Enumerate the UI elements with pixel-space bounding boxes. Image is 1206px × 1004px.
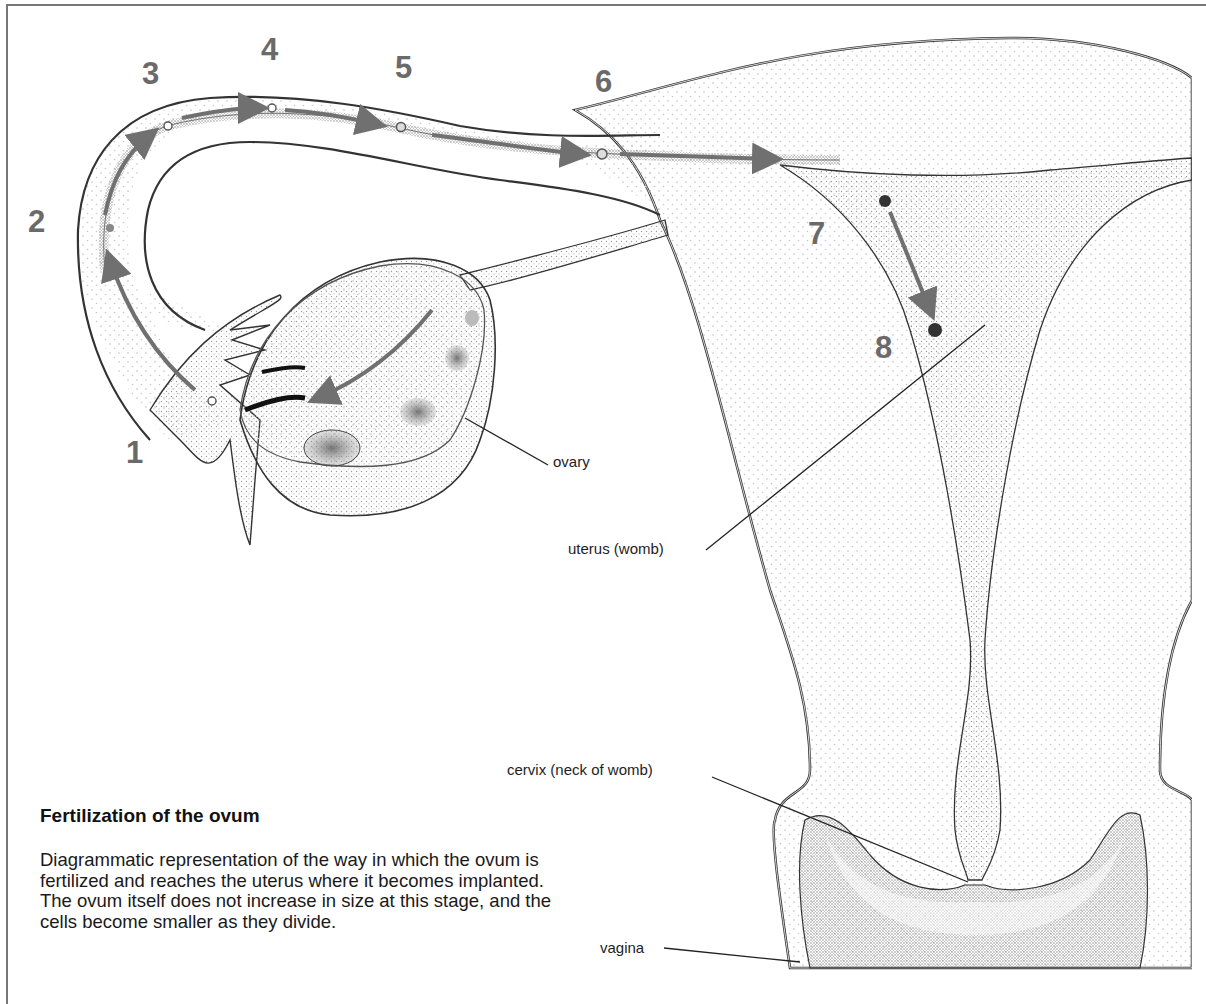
label-ovary: ovary <box>553 454 590 469</box>
label-uterus: uterus (womb) <box>568 541 664 556</box>
label-vagina: vagina <box>600 940 644 955</box>
stage-number-1: 1 <box>126 437 143 468</box>
stage-number-2: 2 <box>28 206 45 237</box>
figure-caption: Diagrammatic representation of the way i… <box>40 850 580 932</box>
stage-number-4: 4 <box>261 34 278 65</box>
stage-number-7: 7 <box>808 218 825 249</box>
figure-title: Fertilization of the ovum <box>40 805 260 827</box>
stage-number-3: 3 <box>142 58 159 89</box>
stage-number-5: 5 <box>395 52 412 83</box>
ovarian-ligament <box>460 220 668 290</box>
stage-number-8: 8 <box>875 332 892 363</box>
stage-number-6: 6 <box>595 66 612 97</box>
label-cervix: cervix (neck of womb) <box>507 762 653 777</box>
